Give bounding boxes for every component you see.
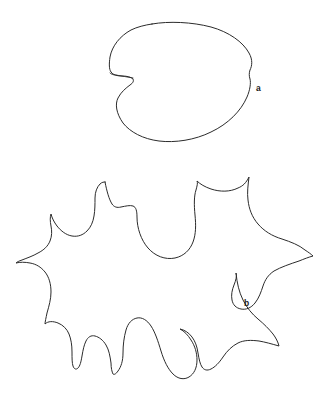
figure-background [0,0,331,398]
figure-label-b: b [244,298,249,308]
figure-label-a: a [256,83,261,93]
figure-canvas: a b [0,0,331,398]
figure-root: a b [0,0,331,398]
